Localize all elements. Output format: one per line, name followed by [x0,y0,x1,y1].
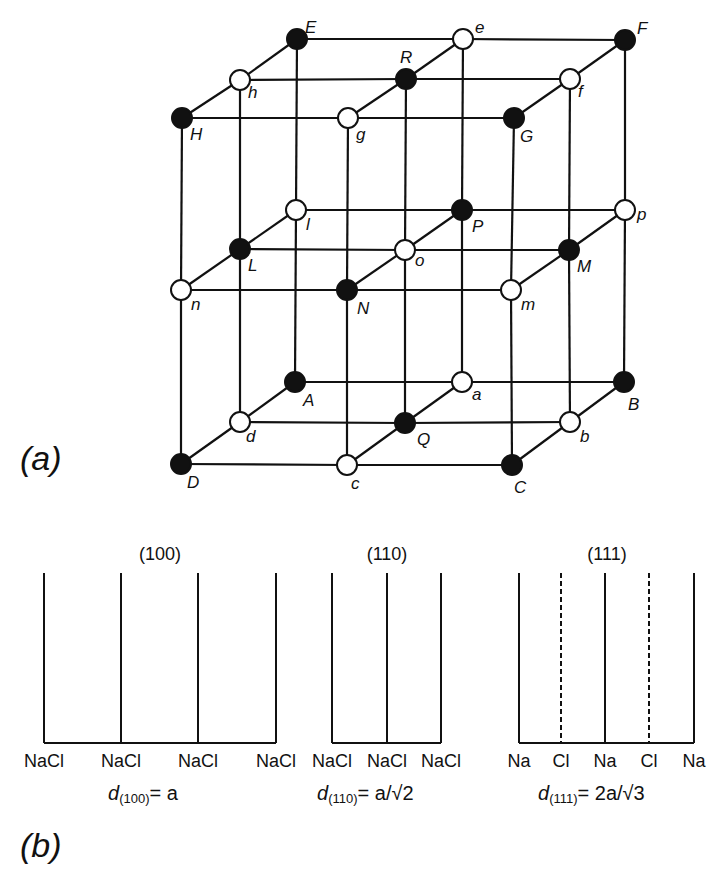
svg-text:NaCl: NaCl [101,751,141,771]
lattice-edge [463,39,625,40]
svg-text:R: R [400,48,412,67]
svg-text:NaCl: NaCl [367,751,407,771]
na-ion-Q: Q [395,413,430,449]
lattice-edge [295,210,296,382]
cl-ion-f: f [560,69,585,101]
na-ion-F: F [615,19,649,50]
svg-text:p: p [636,205,646,224]
lattice-edge [181,464,347,465]
svg-text:NaCl: NaCl [421,751,461,771]
lattice-edge [240,79,406,80]
svg-text:N: N [357,299,370,318]
lattice-edge [569,250,570,422]
svg-text:L: L [248,256,257,275]
svg-text:E: E [305,18,317,37]
lattice-edge [511,118,514,290]
svg-text:F: F [637,19,649,38]
cl-ion-e: e [453,18,484,49]
svg-text:g: g [356,125,366,144]
na-ion-H: H [172,108,203,144]
cl-ion-h: h [230,70,257,102]
svg-text:M: M [577,257,592,276]
cl-ion-a: a [452,372,481,404]
nacl-lattice-figure: EeFhRfHgGlPpLoMnNmAaBdQbDcC (a) (100)NaC… [0,0,717,870]
na-ion-L: L [230,239,257,275]
na-ion-N: N [337,280,370,318]
svg-text:NaCl: NaCl [178,751,218,771]
na-ion-B: B [614,372,639,414]
svg-text:m: m [521,295,535,314]
svg-text:Q: Q [417,430,430,449]
svg-text:Cl: Cl [641,751,658,771]
svg-text:NaCl: NaCl [256,751,296,771]
part-b-label: (b) [20,826,62,864]
lattice-edge [569,79,570,250]
lattice-edge [296,39,297,210]
svg-text:n: n [191,295,200,314]
svg-text:A: A [302,391,314,410]
lattice-edge [181,118,182,290]
na-ion-P: P [452,200,484,236]
cl-ion-g: g [338,108,366,144]
lattice-edge [405,79,406,250]
na-ion-A: A [285,372,314,410]
cl-ion-l: l [286,200,311,234]
lattice-edge [462,39,463,210]
svg-text:a: a [472,385,481,404]
na-ion-D: D [171,454,199,492]
plane-panel-111: (111)NaClNaClNad(111)= 2a/√3 [507,544,706,806]
plane-panel-100: (100)NaClNaClNaClNaCld(100)= a [24,544,296,806]
part-a-label: (a) [20,439,62,477]
svg-text:C: C [514,478,527,497]
plane-panels: (100)NaClNaClNaClNaCld(100)= a(110)NaClN… [24,544,706,806]
svg-text:P: P [472,217,484,236]
svg-text:f: f [578,82,585,101]
svg-text:B: B [628,395,639,414]
lattice-edge [511,290,512,465]
svg-text:NaCl: NaCl [24,751,64,771]
cl-ion-p: p [615,200,646,224]
svg-text:Na: Na [682,751,706,771]
svg-text:D: D [187,473,199,492]
lattice-edge [347,118,348,290]
svg-text:d(110)= a/√2: d(110)= a/√2 [317,782,414,806]
lattice-edge [240,422,405,423]
svg-text:l: l [306,215,311,234]
svg-text:G: G [520,127,533,146]
lattice-nodes: EeFhRfHgGlPpLoMnNmAaBdQbDcC [171,18,649,497]
cl-ion-c: c [337,455,360,493]
svg-text:Na: Na [593,751,617,771]
svg-text:e: e [475,18,484,37]
svg-text:NaCl: NaCl [312,751,352,771]
svg-text:d(100)= a: d(100)= a [108,782,179,806]
na-ion-G: G [504,108,533,146]
lattice-edge [240,249,405,250]
lattice-edge [624,210,625,382]
lattice-edge [405,422,570,423]
cl-ion-b: b [560,412,589,446]
na-ion-C: C [502,455,527,497]
cl-ion-d: d [230,412,256,446]
svg-text:b: b [580,427,589,446]
svg-text:(100): (100) [139,544,181,564]
cl-ion-n: n [171,280,200,314]
cl-ion-o: o [395,240,424,270]
svg-text:H: H [190,125,203,144]
svg-text:(110): (110) [367,544,408,564]
svg-text:h: h [248,83,257,102]
svg-text:d: d [246,427,256,446]
svg-text:c: c [351,474,360,493]
svg-text:d(111)= 2a/√3: d(111)= 2a/√3 [538,782,645,806]
cl-ion-m: m [501,280,535,314]
na-ion-R: R [396,48,416,89]
na-ion-E: E [287,18,317,49]
svg-text:Na: Na [507,751,531,771]
plane-panel-110: (110)NaClNaClNaCld(110)= a/√2 [312,544,461,806]
svg-text:o: o [415,251,424,270]
svg-text:Cl: Cl [553,751,570,771]
svg-text:(111): (111) [587,544,626,564]
na-ion-M: M [559,240,592,276]
